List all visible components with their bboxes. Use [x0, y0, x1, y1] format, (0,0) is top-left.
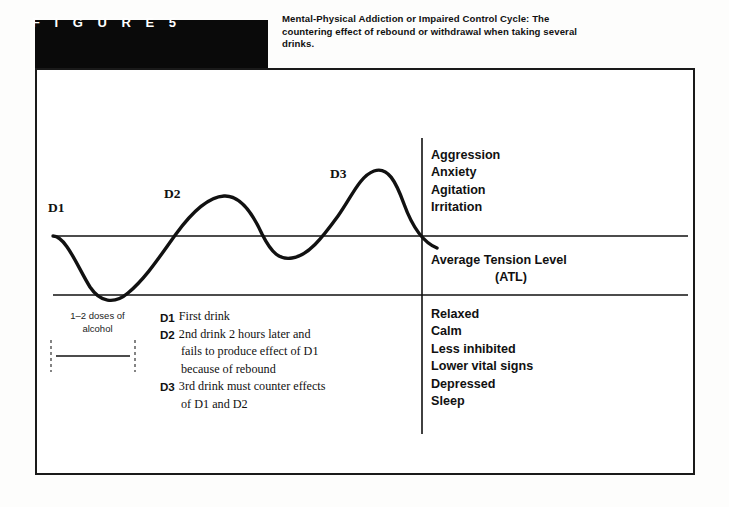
legend-text-d1: First drink: [179, 308, 415, 325]
legend-text-d3: 3rd drink must counter effects: [179, 378, 415, 395]
legend-text-d2-cont-2: because of rebound: [160, 361, 415, 378]
curve-label-d2: D2: [164, 186, 181, 202]
stimulant-effect-item: Aggression: [431, 147, 500, 164]
legend-key-d1: D1: [160, 308, 179, 326]
depressant-effects-list: Relaxed Calm Less inhibited Lower vital …: [431, 306, 533, 410]
atl-label: Average Tension Level: [431, 252, 606, 269]
depressant-effect-item: Calm: [431, 323, 533, 340]
atl-abbrev: (ATL): [431, 269, 591, 286]
depressant-effect-item: Depressed: [431, 376, 533, 393]
legend-text-d3-cont-1: of D1 and D2: [160, 396, 415, 413]
curve-label-d1: D1: [48, 200, 65, 216]
dose-annotation: 1–2 doses of alcohol: [40, 310, 155, 335]
figure-caption: Mental-Physical Addiction or Impaired Co…: [282, 13, 582, 51]
stimulant-effect-item: Agitation: [431, 182, 500, 199]
curve-label-d3: D3: [330, 166, 347, 182]
dose-annotation-line1: 1–2 doses of: [40, 310, 155, 323]
depressant-effect-item: Sleep: [431, 393, 533, 410]
drink-legend: D1 First drink D2 2nd drink 2 hours late…: [160, 308, 415, 413]
figure-container: F I G U R E 5 Mental-Physical Addiction …: [0, 0, 729, 507]
depressant-effect-item: Less inhibited: [431, 341, 533, 358]
atl-label-block: Average Tension Level (ATL): [431, 252, 606, 287]
legend-text-d2-cont-1: fails to produce effect of D1: [160, 343, 415, 360]
dose-annotation-line2: alcohol: [40, 323, 155, 336]
stimulant-effects-list: Aggression Anxiety Agitation Irritation: [431, 147, 500, 217]
legend-entry-d1: D1 First drink: [160, 308, 415, 326]
legend-entry-d3: D3 3rd drink must counter effects: [160, 378, 415, 396]
depressant-effect-item: Relaxed: [431, 306, 533, 323]
legend-key-d3: D3: [160, 378, 179, 396]
legend-entry-d2: D2 2nd drink 2 hours later and: [160, 326, 415, 344]
legend-text-d2: 2nd drink 2 hours later and: [179, 326, 415, 343]
stimulant-effect-item: Anxiety: [431, 164, 500, 181]
depressant-effect-item: Lower vital signs: [431, 358, 533, 375]
stimulant-effect-item: Irritation: [431, 199, 500, 216]
figure-number-label: F I G U R E 5: [32, 15, 182, 30]
legend-key-d2: D2: [160, 326, 179, 344]
